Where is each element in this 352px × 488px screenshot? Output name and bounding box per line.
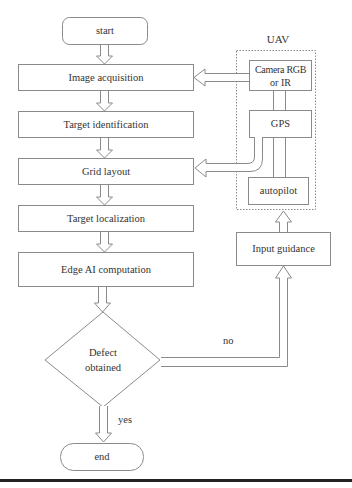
end-label: end [60, 450, 144, 463]
input-guidance-label: Input guidance [236, 242, 331, 255]
bottom-rule [0, 479, 352, 482]
arrow-localization-to-edgeai [97, 232, 113, 252]
step-image-acquisition-label: Image acquisition [18, 71, 194, 84]
arrow-gps-to-grid [195, 137, 263, 177]
step-edge-ai-label: Edge AI computation [18, 263, 194, 276]
decision-label-line2: obtained [60, 361, 146, 374]
decision-label-line1: Defect [60, 346, 146, 359]
gps-label: GPS [249, 117, 312, 130]
step-target-localization-label: Target localization [18, 212, 194, 225]
arrow-decision-yes-to-end [96, 406, 112, 442]
step-grid-layout-label: Grid layout [18, 165, 194, 178]
autopilot-label: autopilot [248, 184, 309, 197]
step-target-identification-label: Target identification [18, 118, 194, 131]
arrow-edgeai-to-decision [95, 287, 111, 312]
arrow-start-to-acquisition [97, 45, 113, 64]
arrow-identification-to-grid [97, 138, 113, 158]
camera-label-line2: or IR [249, 76, 312, 89]
no-label: no [223, 334, 234, 347]
arrow-guidance-to-autopilot [276, 211, 292, 232]
arrow-acquisition-to-identification [97, 91, 113, 111]
start-label: start [62, 24, 148, 37]
decision-diamond [45, 312, 160, 407]
yes-label: yes [118, 413, 132, 426]
camera-label-line1: Camera RGB [249, 63, 312, 76]
arrow-grid-to-localization [97, 185, 113, 205]
arrow-camera-to-acquisition [194, 69, 249, 86]
uav-title: UAV [256, 33, 300, 46]
